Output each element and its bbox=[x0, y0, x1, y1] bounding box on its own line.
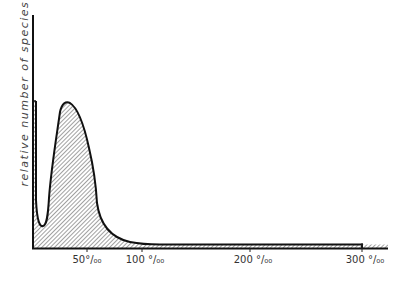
distribution-area bbox=[33, 101, 388, 248]
x-tick-label-300: 300 °/₀₀ bbox=[346, 254, 385, 265]
chart-area bbox=[0, 0, 408, 282]
y-axis-label: relative number of species bbox=[18, 47, 31, 187]
x-tick-label-200: 200 °/₀₀ bbox=[234, 254, 273, 265]
x-tick-label-50: 50°/₀₀ bbox=[72, 254, 101, 265]
x-tick-label-100: 100 °/₀₀ bbox=[126, 254, 165, 265]
